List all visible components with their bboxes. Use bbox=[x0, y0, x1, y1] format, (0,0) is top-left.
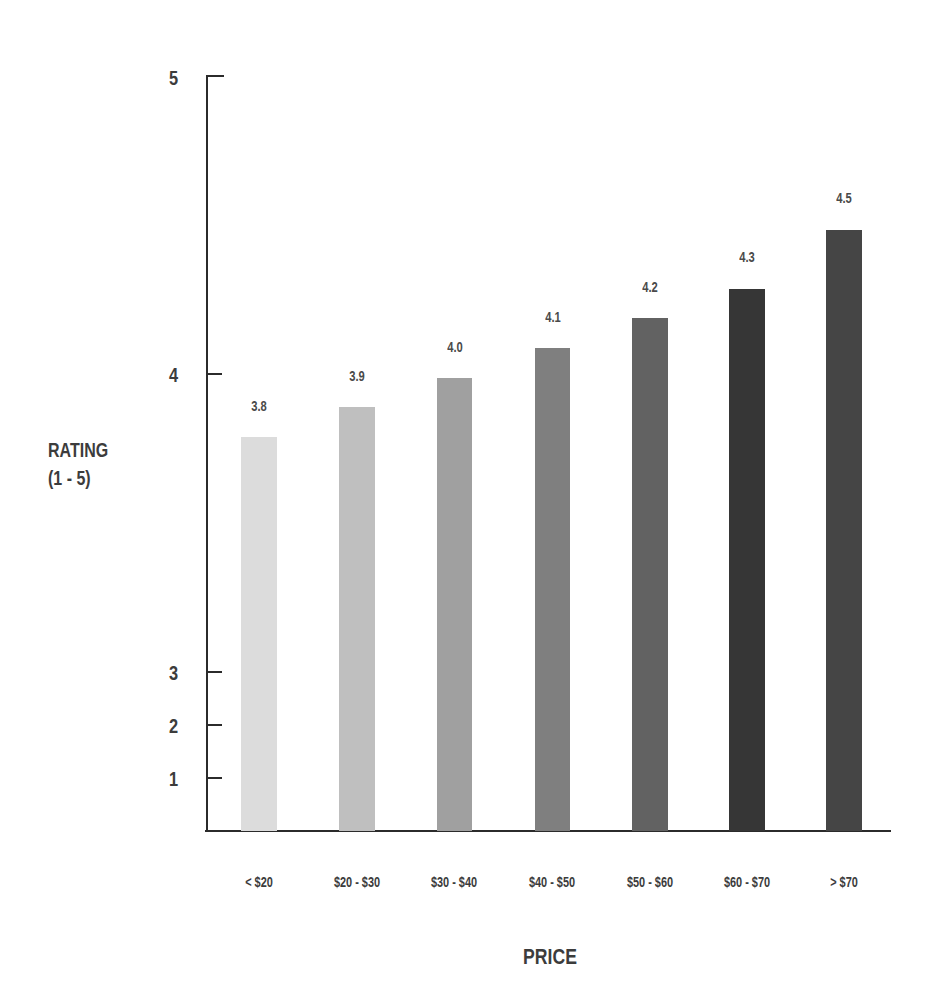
bar-under-20 bbox=[241, 437, 277, 831]
category-label-over-70: > $70 bbox=[805, 874, 883, 890]
value-label-50-60: 4.2 bbox=[626, 279, 674, 295]
y-tick-label-4: 4 bbox=[147, 363, 178, 387]
value-label-30-40: 4.0 bbox=[431, 339, 479, 355]
y-tick-4 bbox=[206, 373, 222, 375]
category-label-40-50: $40 - $50 bbox=[513, 874, 591, 890]
y-tick-label-3: 3 bbox=[147, 661, 178, 685]
category-label-50-60: $50 - $60 bbox=[611, 874, 689, 890]
y-axis-title-line-2: (1 - 5) bbox=[48, 464, 108, 492]
bar-over-70 bbox=[826, 230, 862, 831]
bar-chart: 5 4 3 2 1 RATING (1 - 5) 3.8 3.9 4.0 4.1… bbox=[0, 0, 945, 1006]
value-label-over-70: 4.5 bbox=[820, 190, 868, 206]
x-axis-title: PRICE bbox=[510, 944, 590, 970]
value-label-20-30: 3.9 bbox=[333, 368, 381, 384]
y-tick-label-2: 2 bbox=[147, 714, 178, 738]
value-label-60-70: 4.3 bbox=[723, 249, 771, 265]
y-tick-3 bbox=[206, 671, 222, 673]
category-label-30-40: $30 - $40 bbox=[415, 874, 493, 890]
y-axis-title-line-1: RATING bbox=[48, 436, 108, 464]
y-tick-2 bbox=[206, 724, 222, 726]
y-tick-label-5: 5 bbox=[147, 66, 178, 90]
bar-20-30 bbox=[339, 407, 375, 831]
bar-40-50 bbox=[535, 348, 570, 831]
y-tick-1 bbox=[206, 777, 222, 779]
category-label-under-20: < $20 bbox=[220, 874, 298, 890]
bar-60-70 bbox=[729, 289, 765, 831]
value-label-under-20: 3.8 bbox=[235, 398, 283, 414]
bar-30-40 bbox=[437, 378, 472, 831]
bar-50-60 bbox=[632, 318, 668, 831]
value-label-40-50: 4.1 bbox=[529, 309, 577, 325]
y-tick-label-1: 1 bbox=[147, 767, 178, 791]
category-label-60-70: $60 - $70 bbox=[708, 874, 786, 890]
y-tick-5 bbox=[206, 75, 224, 77]
y-axis-line bbox=[206, 75, 208, 832]
y-axis-title: RATING (1 - 5) bbox=[48, 436, 108, 492]
category-label-20-30: $20 - $30 bbox=[318, 874, 396, 890]
